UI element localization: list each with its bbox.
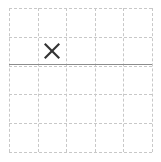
x-mark — [43, 42, 61, 60]
marks-layer — [0, 0, 161, 162]
grid-diagram-canvas — [0, 0, 161, 162]
